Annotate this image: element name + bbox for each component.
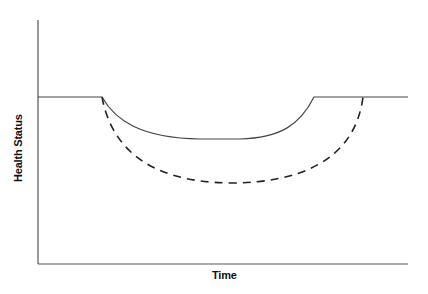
- y-axis-label: Health Status: [12, 114, 24, 182]
- x-axis-label: Time: [212, 269, 237, 281]
- health-status-diagram: [0, 0, 428, 294]
- solid-curve: [38, 97, 408, 139]
- dashed-curve: [102, 97, 363, 183]
